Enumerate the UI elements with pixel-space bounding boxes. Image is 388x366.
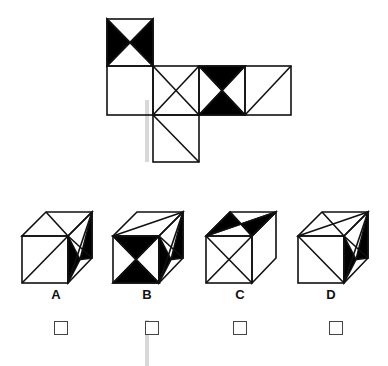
option-label-a: A: [46, 287, 66, 302]
net-square-row2-2: [153, 66, 199, 115]
option-label-c: C: [230, 287, 250, 302]
option-checkbox-d[interactable]: [329, 321, 343, 335]
option-checkbox-b[interactable]: [145, 321, 159, 335]
puzzle-figure: [0, 0, 388, 366]
cube-option-d: [298, 212, 368, 283]
cube-option-a: [22, 212, 92, 283]
option-checkbox-a[interactable]: [54, 321, 68, 335]
option-label-d: D: [321, 287, 341, 302]
cube-option-b: [113, 212, 183, 283]
net-square-row2-3: [199, 66, 245, 115]
cube-option-c: [206, 212, 276, 283]
option-label-b: B: [137, 287, 157, 302]
net-square-row2-1: [107, 66, 153, 115]
net-square-top: [107, 19, 153, 66]
cube-net: [107, 19, 291, 162]
net-square-bottom: [153, 115, 199, 162]
net-square-row2-4: [245, 66, 291, 115]
option-checkbox-c[interactable]: [233, 321, 247, 335]
